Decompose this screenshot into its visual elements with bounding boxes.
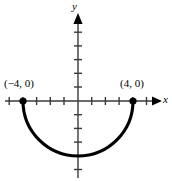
x-axis-label: x: [163, 94, 168, 105]
graph-figure: (−4, 0) (4, 0) y x: [0, 0, 172, 181]
x-axis-arrow-icon: [152, 96, 162, 105]
point-label-left: (−4, 0): [4, 78, 34, 89]
y-axis-arrow-icon: [73, 13, 82, 24]
endpoint-marker-right: [129, 97, 136, 104]
endpoint-marker-left: [19, 97, 26, 104]
y-axis-label: y: [72, 1, 77, 12]
coordinate-plane-svg: [0, 0, 172, 181]
point-label-right: (4, 0): [120, 78, 144, 89]
